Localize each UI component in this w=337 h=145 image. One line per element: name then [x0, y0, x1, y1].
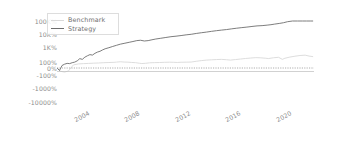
x-axis-tick-label: 2008	[123, 109, 141, 123]
legend-swatch-strategy	[51, 28, 64, 29]
legend-entry-strategy[interactable]: Strategy	[51, 25, 115, 34]
x-axis-tick-label: 2016	[224, 109, 242, 123]
x-axis-tick-label: 2012	[174, 109, 192, 123]
x-axis-tick-label: 2020	[275, 109, 293, 123]
x-axis-tick-label: 2004	[73, 109, 91, 123]
cumulative-returns-chart: 100K%10K%1K%100%0%-100%-1000%-10000% 200…	[0, 0, 337, 145]
legend-entry-benchmark[interactable]: Benchmark	[51, 16, 115, 25]
legend-label-strategy: Strategy	[68, 25, 96, 33]
chart-legend: Benchmark Strategy	[47, 13, 119, 35]
legend-swatch-benchmark	[51, 20, 64, 21]
legend-label-benchmark: Benchmark	[68, 16, 105, 24]
